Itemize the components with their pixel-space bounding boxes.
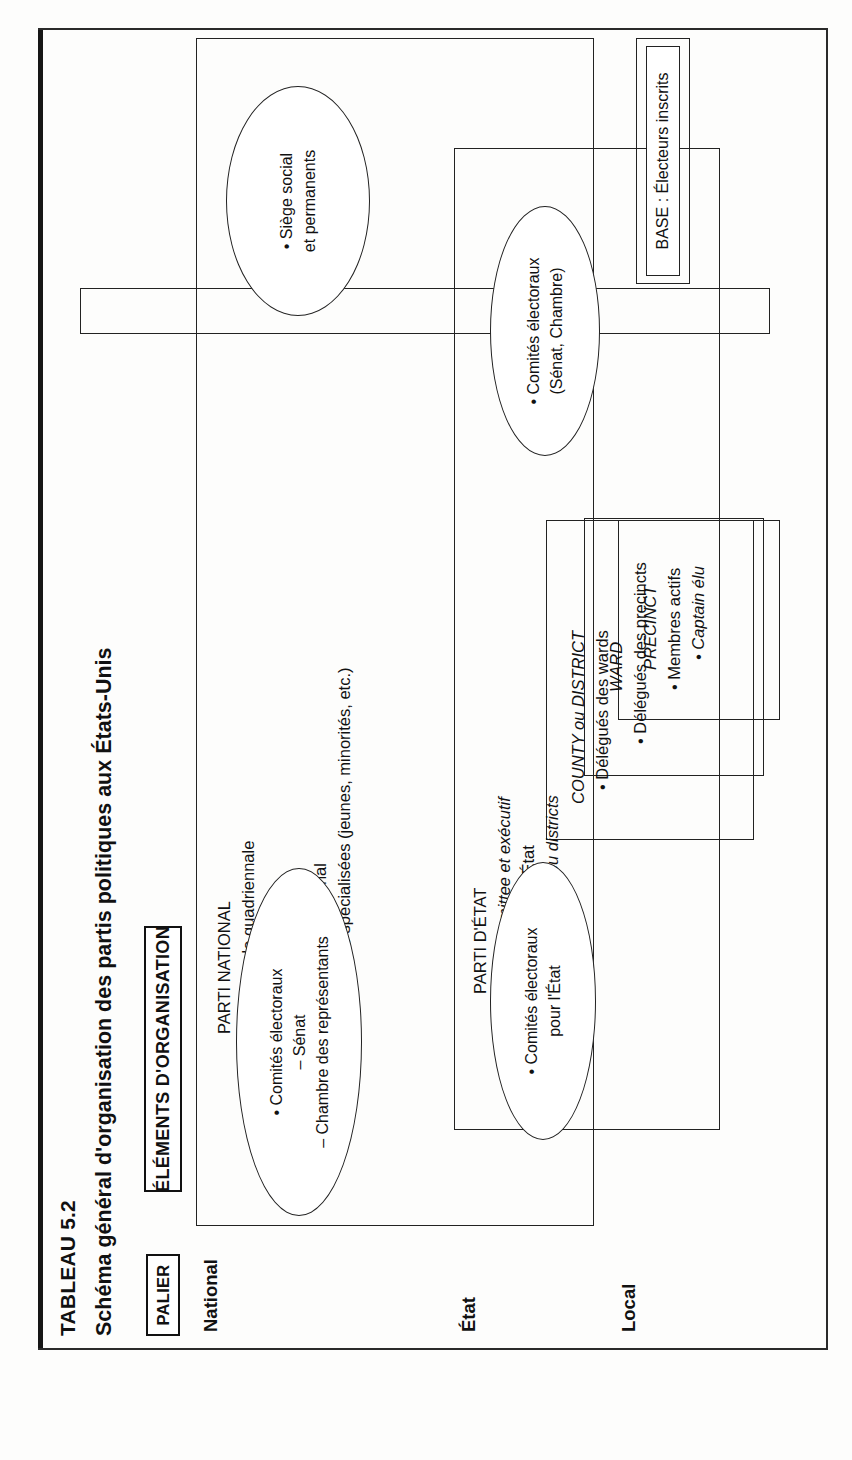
box-base-outer: [636, 38, 690, 284]
header-elements-label: ÉLÉMENTS D'ORGANISATION: [153, 926, 174, 1192]
oval-headquarters: • Siège social et permanents: [226, 86, 370, 316]
oval-congressional-committees: • Comités électoraux (Sénat, Chambre): [490, 206, 600, 456]
oval-congressional-line-0: • Comités électoraux: [522, 258, 545, 405]
scan-edge-left: [38, 28, 43, 1348]
precinct-item-0: • Membres actifs: [662, 566, 686, 690]
tier-label-etat: État: [458, 1297, 480, 1332]
oval-state-line-1: pour l'État: [543, 928, 566, 1075]
tier-label-local: Local: [618, 1284, 640, 1332]
text-precinct: PRECINCT • Membres actifs • Captain élu: [638, 566, 710, 690]
diagram-canvas: TABLEAU 5.2 Schéma général d'organisatio…: [50, 36, 820, 1336]
header-elements-organisation: ÉLÉMENTS D'ORGANISATION: [144, 926, 182, 1192]
precinct-title: PRECINCT: [638, 566, 662, 690]
scan-edge-right: [826, 28, 828, 1350]
page-background: TABLEAU 5.2 Schéma général d'organisatio…: [0, 0, 852, 1460]
oval-national-electoral-committees: • Comités électoraux – Sénat – Chambre d…: [236, 868, 362, 1216]
box-electorate-band: [80, 288, 770, 334]
rotated-content-wrapper: TABLEAU 5.2 Schéma général d'organisatio…: [50, 36, 820, 1336]
table-number: TABLEAU 5.2: [56, 1200, 80, 1336]
oval-national-line-2: – Chambre des représentants: [311, 936, 334, 1148]
oval-state-text: • Comités électoraux pour l'État: [520, 928, 566, 1075]
oval-state-committees: • Comités électoraux pour l'État: [490, 862, 596, 1140]
parti-etat-title: PARTI D'ÉTAT: [468, 795, 492, 1068]
oval-national-line-1: – Sénat: [288, 936, 311, 1148]
county-title: COUNTY ou DISTRICT: [566, 630, 590, 808]
oval-congressional-text: • Comités électoraux (Sénat, Chambre): [522, 258, 568, 405]
parti-national-title: PARTI NATIONAL: [212, 668, 236, 1131]
scan-edge-bottom: [38, 1348, 828, 1350]
oval-state-line-0: • Comités électoraux: [520, 928, 543, 1075]
header-palier: PALIER: [146, 1254, 180, 1336]
tier-label-national: National: [200, 1259, 222, 1332]
page-title: Schéma général d'organisation des partis…: [92, 647, 117, 1336]
scan-edge-top: [38, 28, 828, 30]
oval-headquarters-line-1: et permanents: [298, 150, 321, 252]
ward-title: WARD: [604, 562, 628, 744]
precinct-item-1: • Captain élu: [686, 566, 710, 690]
oval-headquarters-text: • Siège social et permanents: [275, 150, 321, 252]
oval-national-text: • Comités électoraux – Sénat – Chambre d…: [265, 936, 334, 1148]
oval-headquarters-line-0: • Siège social: [275, 150, 298, 252]
header-palier-label: PALIER: [154, 1264, 173, 1325]
oval-national-line-0: • Comités électoraux: [265, 936, 288, 1148]
oval-congressional-line-1: (Sénat, Chambre): [545, 258, 568, 405]
